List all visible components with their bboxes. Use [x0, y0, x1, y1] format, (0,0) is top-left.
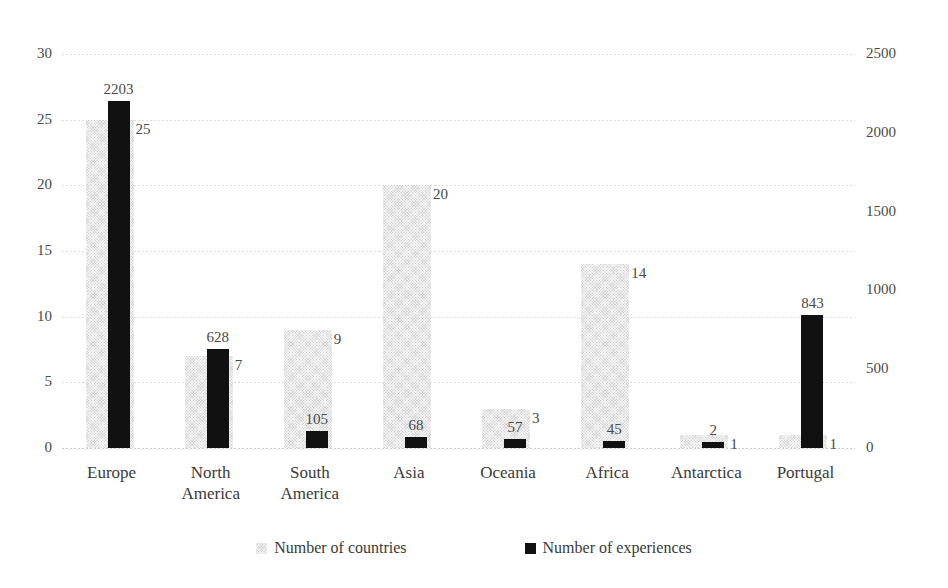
data-label-countries: 7	[235, 358, 243, 373]
bar-experiences[interactable]	[207, 349, 229, 448]
data-label-countries: 14	[631, 266, 646, 281]
right-axis-tick-500: 500	[866, 361, 889, 376]
left-axis-tick-25: 25	[37, 112, 52, 127]
category-tick-north-america: North America	[161, 462, 260, 504]
bar-experiences[interactable]	[603, 441, 625, 448]
bar-countries[interactable]	[383, 185, 431, 448]
data-label-countries: 20	[433, 187, 448, 202]
right-axis-tick-0: 0	[866, 440, 874, 455]
data-label-countries: 3	[532, 411, 540, 426]
right-axis-tick-2500: 2500	[866, 46, 896, 61]
left-axis-tick-30: 30	[37, 46, 52, 61]
category-tick-oceania: Oceania	[459, 462, 558, 483]
right-axis-tick-2000: 2000	[866, 125, 896, 140]
category-tick-portugal: Portugal	[756, 462, 855, 483]
right-axis-tick-1500: 1500	[866, 204, 896, 219]
left-axis-tick-15: 15	[37, 243, 52, 258]
bar-group: 357	[459, 54, 558, 448]
data-label-experiences: 628	[206, 330, 229, 345]
data-label-experiences: 843	[801, 296, 824, 311]
bar-experiences[interactable]	[108, 101, 130, 448]
category-tick-asia: Asia	[359, 462, 458, 483]
bar-experiences[interactable]	[801, 315, 823, 448]
legend-entry-countries[interactable]: Number of countries	[256, 540, 406, 556]
data-label-experiences: 68	[408, 418, 423, 433]
bar-experiences[interactable]	[702, 442, 724, 448]
data-label-experiences: 2203	[104, 82, 134, 97]
data-label-countries: 25	[136, 122, 151, 137]
countries-swatch-icon	[256, 543, 267, 554]
category-tick-south-america: South America	[260, 462, 359, 504]
data-label-experiences: 45	[607, 422, 622, 437]
legend-label: Number of countries	[274, 540, 406, 556]
experiences-swatch-icon	[525, 543, 536, 554]
data-label-countries: 1	[829, 437, 837, 452]
chart-legend: Number of countriesNumber of experiences	[0, 540, 948, 556]
bar-experiences[interactable]	[405, 437, 427, 448]
data-label-experiences: 2	[710, 423, 718, 438]
bar-group: 1445	[558, 54, 657, 448]
data-label-experiences: 105	[306, 412, 329, 427]
data-label-experiences: 57	[508, 420, 523, 435]
bar-experiences[interactable]	[504, 439, 526, 448]
right-axis-tick-1000: 1000	[866, 282, 896, 297]
category-tick-africa: Africa	[558, 462, 657, 483]
bar-chart: 051015202530 05001000150020002500 252203…	[0, 0, 948, 588]
bar-group: 1843	[756, 54, 855, 448]
legend-label: Number of experiences	[543, 540, 692, 556]
bar-group: 7628	[161, 54, 260, 448]
data-label-countries: 9	[334, 332, 342, 347]
left-value-axis: 051015202530	[0, 54, 52, 448]
legend-entry-experiences[interactable]: Number of experiences	[525, 540, 692, 556]
left-axis-tick-0: 0	[45, 440, 53, 455]
category-tick-europe: Europe	[62, 462, 161, 483]
right-value-axis: 05001000150020002500	[866, 54, 936, 448]
left-axis-tick-5: 5	[45, 374, 53, 389]
left-axis-tick-20: 20	[37, 177, 52, 192]
bar-group: 2068	[359, 54, 458, 448]
bar-group: 252203	[62, 54, 161, 448]
left-axis-tick-10: 10	[37, 309, 52, 324]
bar-group: 9105	[260, 54, 359, 448]
plot-area: 2522037628910520683571445121843	[62, 54, 855, 448]
category-tick-antarctica: Antarctica	[657, 462, 756, 483]
data-label-countries: 1	[730, 437, 738, 452]
bar-experiences[interactable]	[306, 431, 328, 448]
bar-countries[interactable]	[284, 330, 332, 448]
bar-countries[interactable]	[581, 264, 629, 448]
bar-group: 12	[657, 54, 756, 448]
